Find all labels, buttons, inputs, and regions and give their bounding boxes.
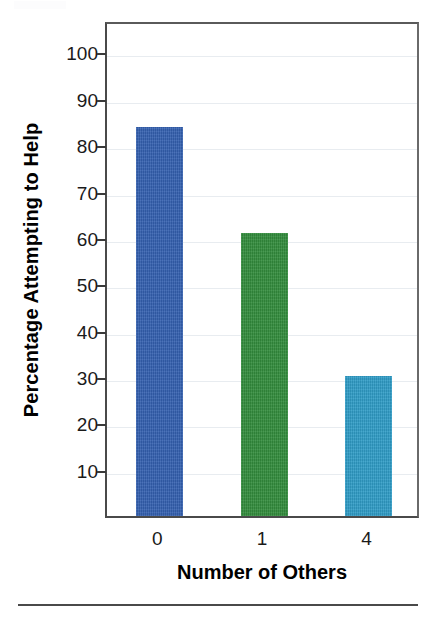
y-axis-tick-label: 30: [48, 368, 98, 390]
x-axis-tick-label: 1: [232, 528, 292, 550]
bar-fill: [136, 127, 183, 516]
bars-group: [107, 24, 417, 516]
y-axis-tick-label: 50: [48, 275, 98, 297]
bar-chart-figure: Percentage Attempting to Help 1020304050…: [0, 0, 440, 618]
y-axis-tick-labels: 102030405060708090100: [48, 22, 98, 518]
y-axis-tick-mark: [97, 146, 106, 148]
y-axis-tick-label: 40: [48, 322, 98, 344]
y-axis-tick-label: 90: [48, 90, 98, 112]
bar[interactable]: [345, 376, 392, 516]
bar-fill: [241, 233, 288, 516]
y-axis-tick-label: 60: [48, 229, 98, 251]
bottom-divider-rule: [18, 604, 418, 606]
y-axis-tick-label: 80: [48, 136, 98, 158]
bar[interactable]: [241, 233, 288, 516]
y-axis-tick-mark: [97, 193, 106, 195]
plot-area: [105, 22, 419, 518]
y-axis-tick-mark: [97, 285, 106, 287]
y-axis-tick-mark: [97, 332, 106, 334]
y-axis-tick-label: 70: [48, 183, 98, 205]
scan-artifact: [14, 1, 66, 9]
y-axis-tick-mark: [97, 53, 106, 55]
y-axis-tick-label: 10: [48, 461, 98, 483]
y-axis-tick-label: 100: [48, 43, 98, 65]
y-axis-tick-mark: [97, 471, 106, 473]
x-axis-tick-label: 4: [337, 528, 397, 550]
y-axis-tick-mark: [97, 239, 106, 241]
y-axis-tick-mark: [97, 378, 106, 380]
y-axis-title: Percentage Attempting to Help: [14, 22, 48, 518]
x-axis-tick-label: 0: [127, 528, 187, 550]
x-axis-title: Number of Others: [105, 561, 419, 584]
bar-fill: [345, 376, 392, 516]
y-axis-tick-label: 20: [48, 414, 98, 436]
bar[interactable]: [136, 127, 183, 516]
y-axis-tick-mark: [97, 424, 106, 426]
y-axis-tick-mark: [97, 100, 106, 102]
